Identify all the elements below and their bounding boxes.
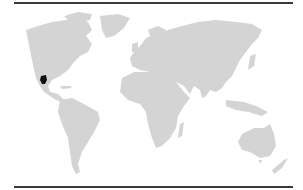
greenland: [100, 14, 130, 38]
bottom-rule: [14, 186, 293, 188]
madagascar: [178, 122, 184, 138]
continent-australia: [238, 124, 276, 158]
world-map: [0, 0, 303, 190]
continent-south-america: [58, 98, 100, 174]
continent-north-america: [26, 18, 92, 100]
british-isles: [132, 42, 138, 52]
tasmania: [258, 160, 262, 164]
new-zealand: [272, 158, 288, 174]
caribbean-islands: [60, 86, 72, 89]
japan: [248, 54, 256, 70]
southeast-asia-islands: [226, 100, 268, 116]
